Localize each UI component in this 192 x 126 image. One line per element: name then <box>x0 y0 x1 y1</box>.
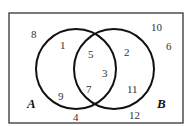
element-outside: 4 <box>73 111 79 123</box>
element-a-only: 9 <box>58 90 64 102</box>
element-a-only: 1 <box>60 39 66 51</box>
element-outside: 10 <box>151 21 163 33</box>
element-intersection: 3 <box>102 67 108 79</box>
set-b-label: B <box>156 96 166 111</box>
set-a-label: A <box>26 96 36 111</box>
element-outside: 6 <box>166 40 172 52</box>
set-b-circle <box>74 29 154 109</box>
element-intersection: 5 <box>88 48 94 60</box>
element-outside: 12 <box>129 109 140 121</box>
element-intersection: 7 <box>86 83 92 95</box>
element-outside: 8 <box>31 28 37 40</box>
element-b-only: 11 <box>127 83 138 95</box>
element-b-only: 2 <box>124 46 130 58</box>
venn-diagram: A B 8 1 5 2 10 6 3 9 7 11 4 12 <box>0 0 192 126</box>
